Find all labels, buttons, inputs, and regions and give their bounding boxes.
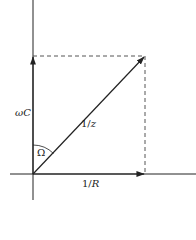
resultant-vector [33, 57, 144, 174]
omega-c-label: ωC [15, 108, 31, 118]
angle-label: Ω [37, 148, 45, 158]
resultant-label: 1/z [81, 119, 96, 129]
one-over-r-label: 1/R [82, 179, 99, 189]
